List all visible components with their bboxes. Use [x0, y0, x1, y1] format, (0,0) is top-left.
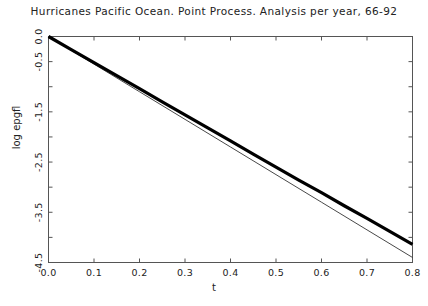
series-empirical-epgfl [49, 37, 413, 245]
plot-frame [49, 37, 413, 263]
plot-area: 0.00.10.20.30.40.50.60.70.8 0.0-0.5-1.5-… [0, 0, 428, 306]
x-tick-label: 0.4 [222, 267, 238, 278]
y-tick-label: -3.5 [33, 202, 44, 222]
x-tick-label: 0.6 [313, 267, 329, 278]
y-tick-labels: 0.0-0.5-1.5-2.5-3.5-4.5 [33, 28, 44, 272]
y-axis-label: log epgfl [11, 88, 22, 168]
data-series [49, 37, 413, 258]
x-tick-label: 0.5 [268, 267, 284, 278]
y-tick-label: -0.5 [33, 52, 44, 72]
y-tick-label: 0.0 [33, 28, 44, 44]
x-axis-label: t [0, 282, 428, 293]
y-tick-label: -1.5 [33, 102, 44, 122]
x-tick-label: 0.7 [359, 267, 375, 278]
y-tick-marks [49, 37, 413, 263]
x-tick-label: 0.8 [404, 267, 420, 278]
chart-figure: Hurricanes Pacific Ocean. Point Process.… [0, 0, 428, 306]
x-tick-label: 0.2 [131, 267, 147, 278]
y-tick-label: -4.5 [33, 253, 44, 273]
x-tick-labels: 0.00.10.20.30.40.50.60.70.8 [40, 267, 420, 278]
x-tick-marks [49, 37, 413, 263]
x-tick-label: 0.3 [177, 267, 193, 278]
y-tick-label: -2.5 [33, 152, 44, 172]
x-tick-label: 0.1 [86, 267, 102, 278]
